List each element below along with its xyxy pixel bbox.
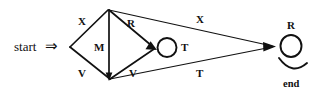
edge-label-bottom-right: T <box>196 68 203 79</box>
edge-label-top-left: X <box>78 16 86 27</box>
edge-label-bottom-middle: V <box>129 68 137 79</box>
edge-label-diagonal-right: R <box>127 18 135 29</box>
edge-label-middle-loop: T <box>181 42 188 53</box>
end-arc <box>279 58 307 68</box>
arrowhead-right-end-icon <box>263 42 276 52</box>
start-label: start <box>14 40 36 53</box>
start-arrow-icon: ⇒ <box>45 39 58 54</box>
end-loop-circle <box>281 35 302 57</box>
edge-label-vertical-middle: M <box>94 42 104 53</box>
end-label: end <box>283 79 299 90</box>
edge-label-bottom-left: V <box>78 68 86 79</box>
state-transition-diagram: start ⇒ X R X M V V T T R end <box>0 0 330 95</box>
edge-label-end-loop: R <box>287 20 295 31</box>
middle-loop-circle <box>158 38 177 57</box>
edge-label-top-right: X <box>196 14 204 25</box>
